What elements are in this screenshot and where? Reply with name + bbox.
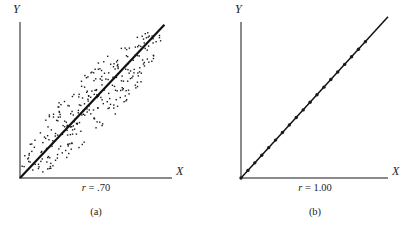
scatter-point <box>45 138 46 139</box>
scatter-point <box>130 70 131 71</box>
scatter-point <box>100 97 101 98</box>
scatter-point <box>60 104 61 105</box>
scatter-point <box>44 136 45 137</box>
scatter-point <box>64 120 65 121</box>
scatter-point <box>116 99 117 100</box>
scatter-point <box>29 153 30 154</box>
scatter-point <box>139 71 140 72</box>
scatter-point <box>60 146 61 147</box>
scatter-point <box>322 85 325 88</box>
scatter-point <box>72 96 73 97</box>
scatter-point <box>253 161 256 164</box>
scatter-point <box>58 117 59 118</box>
scatter-point <box>68 145 69 146</box>
scatter-point <box>68 105 69 106</box>
scatter-point <box>80 105 81 106</box>
scatter-point <box>76 123 77 124</box>
scatter-point <box>71 148 72 149</box>
scatter-point <box>84 75 85 76</box>
scatter-point <box>114 68 115 69</box>
scatter-point <box>23 166 24 167</box>
scatter-point <box>73 125 74 126</box>
scatter-point <box>101 76 102 77</box>
scatter-point <box>128 72 129 73</box>
scatter-point <box>110 64 111 65</box>
scatter-point <box>107 101 108 102</box>
scatter-point <box>112 85 113 86</box>
scatter-point <box>120 90 121 91</box>
scatter-point <box>125 69 126 70</box>
scatter-point <box>239 176 242 179</box>
scatter-point <box>113 107 114 108</box>
scatter-point <box>130 78 131 79</box>
scatter-point <box>72 133 73 134</box>
scatter-point <box>68 153 69 154</box>
scatter-point <box>49 114 50 115</box>
scatter-point <box>55 135 56 136</box>
correlation-label-b: r = 1.00 <box>265 182 365 193</box>
scatter-point <box>65 150 66 151</box>
scatter-point <box>139 67 140 68</box>
scatter-point <box>135 87 136 88</box>
scatter-point <box>121 48 122 49</box>
scatter-point <box>116 90 117 91</box>
scatter-point <box>78 94 79 95</box>
scatter-point <box>90 113 91 114</box>
scatter-point <box>86 92 87 93</box>
scatter-point <box>67 144 68 145</box>
scatter-point <box>135 46 136 47</box>
scatter-point <box>125 90 126 91</box>
scatter-point <box>103 61 104 62</box>
correlation-label-a: r = .70 <box>46 182 146 193</box>
scatter-point <box>288 123 291 126</box>
scatter-point <box>94 94 95 95</box>
scatter-point <box>160 40 161 41</box>
scatter-point <box>53 114 54 115</box>
scatter-point <box>308 101 311 104</box>
scatter-point <box>84 86 85 87</box>
scatter-point <box>108 72 109 73</box>
scatter-point <box>143 63 144 64</box>
scatter-point <box>47 168 48 169</box>
scatter-point <box>32 169 33 170</box>
scatter-point <box>81 86 82 87</box>
scatter-point <box>301 108 304 111</box>
scatter-point <box>137 46 138 47</box>
scatter-point <box>117 64 118 65</box>
scatter-point <box>52 165 53 166</box>
scatter-point <box>140 81 141 82</box>
scatter-point <box>27 158 28 159</box>
scatter-point <box>72 129 73 130</box>
scatter-point <box>126 49 127 50</box>
scatter-point <box>64 126 65 127</box>
scatter-point <box>101 125 102 126</box>
scatter-point <box>102 123 103 124</box>
scatter-point <box>109 98 110 99</box>
scatter-point <box>28 161 29 162</box>
scatter-point <box>83 114 84 115</box>
scatter-point <box>73 94 74 95</box>
scatter-point <box>64 101 65 102</box>
scatter-point <box>357 48 360 51</box>
scatter-point <box>123 80 124 81</box>
scatter-point <box>30 144 31 145</box>
scatter-point <box>127 80 128 81</box>
scatter-point <box>62 125 63 126</box>
regression-line <box>20 25 164 178</box>
scatter-point <box>141 36 142 37</box>
scatter-point <box>115 90 116 91</box>
scatter-point <box>78 147 79 148</box>
scatter-point <box>59 111 60 112</box>
scatter-point <box>133 72 134 73</box>
scatter-point <box>281 131 284 134</box>
x-axis-label-b: X <box>392 165 399 177</box>
scatter-point <box>108 93 109 94</box>
scatter-point <box>29 161 30 162</box>
scatter-point <box>148 45 149 46</box>
scatter-point <box>148 61 149 62</box>
scatter-point <box>88 95 89 96</box>
scatter-point <box>126 99 127 100</box>
scatter-point <box>87 76 88 77</box>
scatter-point <box>69 143 70 144</box>
scatter-point <box>138 45 139 46</box>
